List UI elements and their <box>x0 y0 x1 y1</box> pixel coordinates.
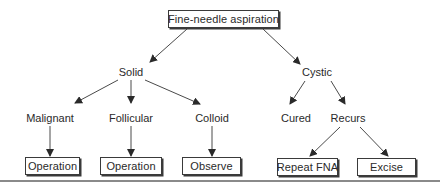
node-cystic: Cystic <box>302 66 332 78</box>
outcome-label: Excise <box>370 161 403 173</box>
outcome-label: Observe <box>190 160 232 172</box>
outcome-label: Operation <box>28 160 77 172</box>
bottom-divider <box>0 180 440 182</box>
node-malignant: Malignant <box>26 112 74 124</box>
node-solid: Solid <box>119 66 143 78</box>
outcome-label: Operation <box>106 160 155 172</box>
node-colloid: Colloid <box>195 112 229 124</box>
node-recurs: Recurs <box>331 112 366 124</box>
node-cured: Cured <box>281 112 311 124</box>
outcome-operation-malignant: Operation <box>25 157 80 175</box>
outcome-label: Repeat FNA <box>277 161 339 173</box>
decision-tree-diagram: Fine-needle aspiration Solid Cystic Mali… <box>0 0 440 192</box>
outcome-excise: Excise <box>357 158 416 176</box>
outcome-repeat-fna: Repeat FNA <box>277 158 338 176</box>
outcome-observe: Observe <box>182 157 241 175</box>
root-node-label: Fine-needle aspiration <box>168 13 279 25</box>
outcome-operation-follicular: Operation <box>100 157 162 175</box>
root-node-fine-needle-aspiration: Fine-needle aspiration <box>168 10 279 28</box>
node-follicular: Follicular <box>109 112 153 124</box>
